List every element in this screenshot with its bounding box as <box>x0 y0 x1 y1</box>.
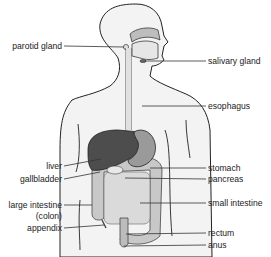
digestive-system-diagram: parotid gland liver gallbladder large in… <box>0 0 271 257</box>
rectum-shape <box>120 218 128 247</box>
label-gallbladder: gallbladder <box>20 174 62 184</box>
label-anus: anus <box>208 240 227 250</box>
label-stomach: stomach <box>208 163 240 173</box>
pancreas-shape <box>107 166 123 174</box>
small-intestine-shape <box>104 172 150 224</box>
label-appendix: appendix <box>27 223 62 233</box>
oral-cavity <box>132 41 158 60</box>
label-esophagus: esophagus <box>208 101 250 111</box>
label-small-intestine: small intestine <box>208 198 262 208</box>
label-colon: (colon) <box>36 211 62 221</box>
label-pancreas: pancreas <box>208 174 243 184</box>
label-parotid-gland: parotid gland <box>12 41 62 51</box>
label-liver: liver <box>46 161 62 171</box>
label-salivary-gland: salivary gland <box>208 56 261 66</box>
label-rectum: rectum <box>208 228 234 238</box>
label-large-intestine: large intestine <box>8 200 62 210</box>
